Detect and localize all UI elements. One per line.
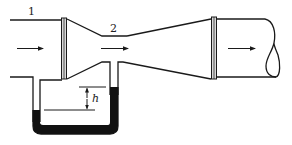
section-2-label: 2 [110,22,117,35]
diverging-top-wall [127,19,211,36]
h-label: h [92,92,99,105]
outlet-flange [212,17,217,79]
converging-bottom-wall [67,62,110,95]
manometer-left-inner-wall [40,80,62,122]
pipe-break-symbol [265,19,280,77]
venturi-meter-diagram: h 1 2 [0,0,292,145]
inlet-flange [62,18,67,79]
converging-top-wall [67,19,127,36]
upstream-pipe-bottom-wall [10,77,33,122]
diverging-bottom-wall [118,62,211,95]
section-1-label: 1 [28,5,35,18]
